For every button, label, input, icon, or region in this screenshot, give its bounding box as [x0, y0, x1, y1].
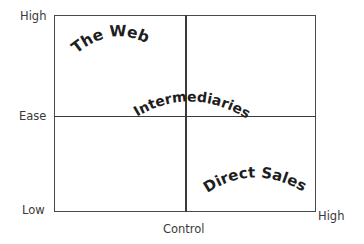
quadrant-label-intermediaries: Intermediaries	[131, 88, 254, 121]
the-web-text: The Web	[68, 22, 152, 57]
intermediaries-text: Intermediaries	[131, 88, 254, 121]
curved-labels: The Web Intermediaries Direct Sales	[0, 0, 364, 244]
quadrant-label-the-web: The Web	[68, 22, 152, 57]
ease-control-matrix: High Ease Low Control High The Web Inter…	[0, 0, 364, 244]
direct-sales-text: Direct Sales	[200, 163, 310, 196]
quadrant-label-direct-sales: Direct Sales	[200, 163, 310, 196]
